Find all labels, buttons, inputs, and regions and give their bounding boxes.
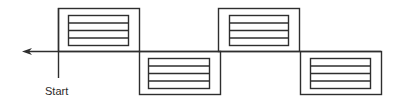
module-4-below — [301, 52, 382, 95]
start-label: Start — [45, 85, 68, 97]
module-2-below — [140, 52, 221, 95]
module-3-above — [219, 9, 300, 52]
module-1-above — [59, 9, 140, 52]
